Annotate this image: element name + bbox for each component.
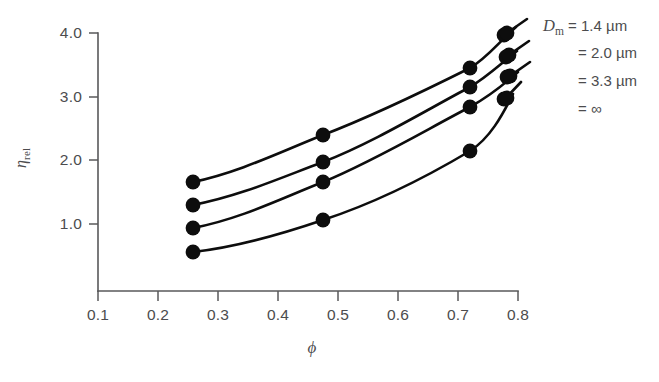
legend-value-3: = 3.3 µm xyxy=(578,72,637,89)
x-tick-label-3: 0.4 xyxy=(267,306,289,324)
legend-entry-3: = 3.3 µm xyxy=(578,72,637,89)
data-point xyxy=(316,128,331,143)
axis-lines xyxy=(98,33,518,291)
legend-entry-2: = 2.0 µm xyxy=(578,44,637,61)
x-tick-label-0: 0.1 xyxy=(87,306,109,324)
legend-value-4: = ∞ xyxy=(578,100,602,117)
legend-marker-dot-4 xyxy=(500,91,515,106)
legend-entry-4: = ∞ xyxy=(578,100,602,117)
data-point xyxy=(186,221,201,236)
y-tick-label-3: 3.0 xyxy=(30,88,82,106)
figure-container: 4.0 3.0 2.0 1.0 0.1 0.2 0.3 0.4 0.5 0.6 … xyxy=(0,0,659,382)
legend-value-2: = 2.0 µm xyxy=(578,44,637,61)
data-point xyxy=(463,100,478,115)
data-point xyxy=(316,213,331,228)
x-tick-label-7: 0.8 xyxy=(507,306,529,324)
data-point xyxy=(186,175,201,190)
chart-canvas xyxy=(0,0,659,382)
x-tick-label-6: 0.7 xyxy=(447,306,469,324)
data-markers xyxy=(186,28,515,260)
y-axis-title-symbol: η xyxy=(12,160,29,168)
data-point xyxy=(186,198,201,213)
legend-marker-dot-1 xyxy=(500,26,515,41)
legend-marker-dot-2 xyxy=(502,48,517,63)
y-axis-ticks xyxy=(89,33,98,224)
legend-entry-1: Dm = 1.4 µm xyxy=(543,16,627,37)
x-tick-label-1: 0.2 xyxy=(147,306,169,324)
data-point xyxy=(463,80,478,95)
legend-symbol-subscript-m: m xyxy=(555,25,564,37)
y-tick-label-2: 2.0 xyxy=(30,151,82,169)
x-tick-label-5: 0.6 xyxy=(387,306,409,324)
y-axis-title: ηrel xyxy=(12,148,32,168)
y-axis-title-subscript: rel xyxy=(20,148,32,161)
data-point xyxy=(316,155,331,170)
y-tick-label-4: 4.0 xyxy=(30,24,82,42)
x-tick-label-2: 0.3 xyxy=(207,306,229,324)
data-point xyxy=(463,144,478,159)
data-point xyxy=(316,175,331,190)
curve-series-4 xyxy=(193,94,513,252)
x-axis-ticks xyxy=(98,291,518,301)
legend-symbol-dm: Dm xyxy=(543,16,564,35)
y-tick-label-1: 1.0 xyxy=(30,215,82,233)
x-tick-label-4: 0.5 xyxy=(327,306,349,324)
legend-value-1: = 1.4 µm xyxy=(568,17,627,34)
data-point xyxy=(463,61,478,76)
x-axis-title: ϕ xyxy=(308,338,317,358)
legend-symbol-d: D xyxy=(543,16,555,35)
data-point xyxy=(186,245,201,260)
legend-marker-dot-3 xyxy=(503,69,518,84)
